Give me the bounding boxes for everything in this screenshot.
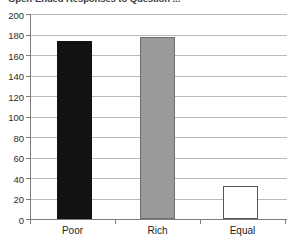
y-tick-label-180: 180 xyxy=(0,31,24,41)
chart-title: Open-Ended Responses to Question ... xyxy=(8,0,293,6)
x-tick-mark-2 xyxy=(200,220,201,224)
bar-equal[interactable] xyxy=(223,186,258,219)
bar-poor[interactable] xyxy=(57,41,92,219)
y-tick-label-160: 160 xyxy=(0,52,24,62)
x-category-label-rich: Rich xyxy=(115,225,200,237)
y-tick-label-100: 100 xyxy=(0,113,24,123)
x-tick-mark-0 xyxy=(30,220,31,224)
bars-layer xyxy=(30,14,287,219)
y-tick-label-60: 60 xyxy=(0,154,24,164)
bar-chart-figure: Open-Ended Responses to Question ... 200… xyxy=(0,0,293,242)
y-tick-label-20: 20 xyxy=(0,195,24,205)
x-category-label-poor: Poor xyxy=(30,225,115,237)
y-tick-label-40: 40 xyxy=(0,175,24,185)
x-axis-line xyxy=(30,219,287,220)
y-tick-label-140: 140 xyxy=(0,72,24,82)
x-tick-mark-1 xyxy=(115,220,116,224)
y-tick-label-80: 80 xyxy=(0,134,24,144)
bar-rich[interactable] xyxy=(140,37,175,219)
x-tick-mark-3 xyxy=(285,220,286,224)
y-tick-label-200: 200 xyxy=(0,11,24,21)
y-axis-line xyxy=(30,14,31,220)
x-category-label-equal: Equal xyxy=(200,225,285,237)
y-tick-label-0: 0 xyxy=(0,216,24,226)
y-tick-label-120: 120 xyxy=(0,93,24,103)
y-axis-tick-labels: 200 180 160 140 120 100 80 60 40 20 0 xyxy=(0,0,24,242)
